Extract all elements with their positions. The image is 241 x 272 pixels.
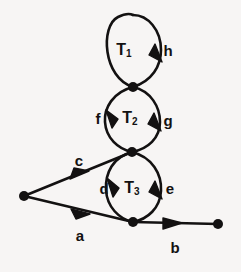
loop-label-T2-subscript: 2 [132, 116, 138, 127]
loop-label-T3-subscript: 3 [134, 186, 140, 197]
edge-label-e: e [166, 181, 174, 196]
arrowhead-f [106, 110, 118, 128]
edge-a [24, 196, 133, 222]
arrowhead-d [107, 178, 119, 197]
edge-label-g: g [163, 113, 172, 128]
arrowhead-b [163, 218, 182, 229]
loop-label-T1-base: T [116, 41, 126, 58]
edge-label-b: b [170, 240, 179, 255]
node-sink [213, 219, 223, 229]
edge-label-a: a [76, 228, 84, 243]
edge-label-c: c [75, 153, 83, 168]
node-mid [127, 147, 137, 157]
loop-label-T2: T2 [122, 110, 137, 126]
loop-label-T1: T1 [116, 42, 131, 58]
edge-b [133, 218, 218, 229]
node-top [128, 82, 138, 92]
edge-label-h: h [163, 43, 172, 58]
loop-label-T3: T3 [124, 180, 139, 196]
loop-T1 [107, 14, 162, 87]
loop-label-T1-subscript: 1 [126, 48, 132, 59]
edge-label-d: d [99, 181, 108, 196]
node-source [19, 191, 29, 201]
loop-label-T2-base: T [122, 109, 132, 126]
node-bottom [128, 217, 138, 227]
signal-flow-graph-figure: T1 T2 T3 h f g d e c a b [0, 0, 241, 272]
loop-label-T3-base: T [124, 179, 134, 196]
edge-label-f: f [96, 111, 101, 126]
